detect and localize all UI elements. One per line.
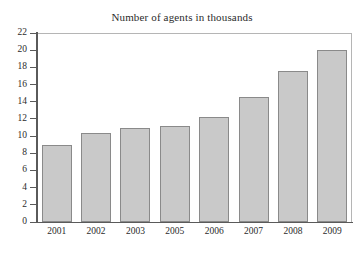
x-axis-tick-label: 2008 — [273, 227, 312, 237]
x-axis-tick-label: 2001 — [37, 227, 76, 237]
y-axis-tick-label: 14 — [5, 97, 27, 107]
x-axis-tick-label: 2007 — [234, 227, 273, 237]
x-axis-tick-label: 2002 — [76, 227, 115, 237]
y-axis-line — [36, 32, 38, 223]
y-axis-tick-label: 8 — [5, 148, 27, 158]
y-axis-tick — [30, 222, 36, 223]
y-axis-tick-label: 10 — [5, 131, 27, 141]
x-axis-tick-label: 2005 — [155, 227, 194, 237]
y-axis-tick — [30, 153, 36, 154]
y-axis-tick-label: 16 — [5, 80, 27, 90]
y-axis-tick — [30, 170, 36, 171]
y-axis-tick-label: 22 — [5, 28, 27, 38]
x-axis-tick-label: 2009 — [313, 227, 352, 237]
x-axis-tick-label: 2006 — [195, 227, 234, 237]
chart-title: Number of agents in thousands — [0, 11, 364, 23]
bar-2007 — [239, 97, 269, 222]
y-axis-tick — [30, 136, 36, 137]
y-axis-tick — [30, 50, 36, 51]
x-axis-tick-label: 2003 — [116, 227, 155, 237]
bar-2002 — [81, 133, 111, 222]
y-axis-tick-label: 20 — [5, 45, 27, 55]
bar-2003 — [120, 128, 150, 223]
y-axis-tick-label: 18 — [5, 62, 27, 72]
bar-2005 — [160, 126, 190, 222]
y-axis-tick-label: 4 — [5, 183, 27, 193]
bar-chart-figure: Number of agents in thousands 0246810121… — [0, 0, 364, 257]
y-axis-tick — [30, 118, 36, 119]
bar-2001 — [42, 145, 72, 222]
bar-2009 — [317, 50, 347, 222]
y-axis-tick — [30, 33, 36, 34]
y-axis-tick — [30, 101, 36, 102]
y-axis-tick-label: 12 — [5, 114, 27, 124]
bar-2006 — [199, 117, 229, 222]
y-axis-tick-label: 0 — [5, 217, 27, 227]
y-axis-tick — [30, 67, 36, 68]
y-axis-tick — [30, 187, 36, 188]
y-axis-tick-label: 2 — [5, 200, 27, 210]
y-axis-tick — [30, 84, 36, 85]
bar-2008 — [278, 71, 308, 222]
y-axis-tick-label: 6 — [5, 165, 27, 175]
y-axis-tick — [30, 204, 36, 205]
